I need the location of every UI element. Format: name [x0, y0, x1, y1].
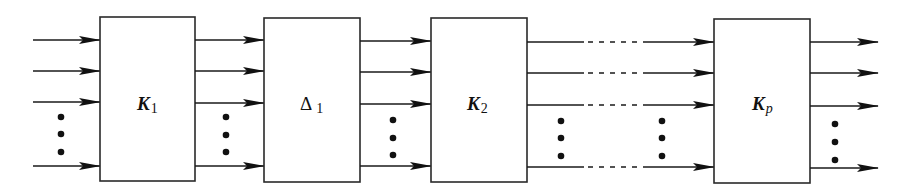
ellipsis-dot — [58, 114, 65, 121]
output-arrows — [810, 42, 878, 168]
arrows-delta1-to-k2 — [360, 41, 431, 166]
block-delta1: Δ1 — [264, 18, 360, 182]
ellipsis-dot — [58, 131, 65, 138]
arrows-k2-to-kp — [527, 42, 714, 167]
block-k2: K2 — [431, 18, 527, 182]
block-k1: K1 — [100, 17, 195, 181]
block-diagram: K1 Δ1 K2 — [0, 0, 911, 193]
block-kp: Kp — [714, 19, 810, 183]
input-arrows — [33, 40, 100, 166]
ellipsis-dot — [58, 149, 65, 156]
arrows-k1-to-delta1 — [195, 40, 264, 166]
